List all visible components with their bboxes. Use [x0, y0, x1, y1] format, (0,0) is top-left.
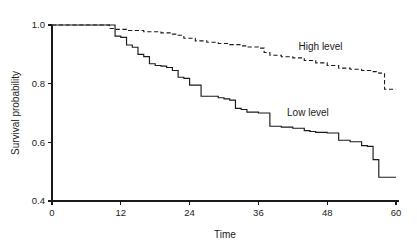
y-axis-tick-labels: 0.40.60.81.0 — [32, 19, 45, 206]
x-axis-title: Time — [214, 229, 236, 240]
x-axis-ticks — [52, 201, 396, 205]
series-label-low-level: Low level — [287, 107, 329, 118]
x-axis-tick-labels: 01224364860 — [49, 207, 401, 218]
chart-canvas: 0.40.60.81.0 01224364860 High level Low … — [0, 0, 417, 246]
y-axis-ticks — [48, 25, 52, 201]
series-line-low-level — [52, 25, 396, 177]
x-tick-label-48: 48 — [322, 207, 333, 218]
x-tick-label-60: 60 — [391, 207, 402, 218]
y-axis-title: Survival probability — [10, 71, 21, 155]
survival-curve-figure: 0.40.60.81.0 01224364860 High level Low … — [0, 0, 417, 246]
y-tick-label-1.0: 1.0 — [32, 19, 45, 30]
series-line-high-level — [52, 25, 396, 89]
x-tick-label-36: 36 — [253, 207, 264, 218]
series-label-high-level: High level — [299, 41, 343, 52]
y-tick-label-0.4: 0.4 — [32, 195, 45, 206]
x-tick-label-0: 0 — [49, 207, 54, 218]
y-tick-label-0.8: 0.8 — [32, 78, 45, 89]
x-tick-label-12: 12 — [116, 207, 127, 218]
x-tick-label-24: 24 — [184, 207, 195, 218]
y-tick-label-0.6: 0.6 — [32, 137, 45, 148]
